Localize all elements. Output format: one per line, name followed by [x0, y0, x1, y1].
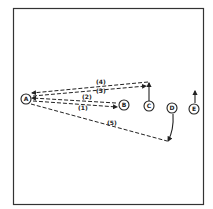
- player-b: B: [119, 100, 129, 110]
- pass-line-1: [33, 101, 117, 107]
- player-c: C: [144, 101, 154, 111]
- svg-text:E: E: [192, 105, 196, 112]
- svg-text:C: C: [147, 102, 152, 109]
- svg-text:B: B: [122, 101, 127, 108]
- pass-line-2: [32, 98, 116, 103]
- player-a: A: [21, 94, 31, 104]
- pass-label-5: (5): [107, 119, 117, 126]
- pass-label-2: (2): [82, 93, 92, 100]
- run-d: [168, 114, 173, 141]
- pass-label-1: (1): [78, 104, 88, 111]
- svg-text:D: D: [170, 104, 175, 111]
- player-e: E: [189, 104, 199, 114]
- play-diagram: (4) (3) (2) (1) (5) A B C D E: [0, 0, 213, 209]
- player-d: D: [167, 103, 177, 113]
- svg-text:A: A: [24, 95, 29, 102]
- pass-label-4: (4): [96, 78, 106, 85]
- player-nodes: A B C D E: [21, 94, 199, 114]
- pass-label-3: (3): [96, 87, 106, 94]
